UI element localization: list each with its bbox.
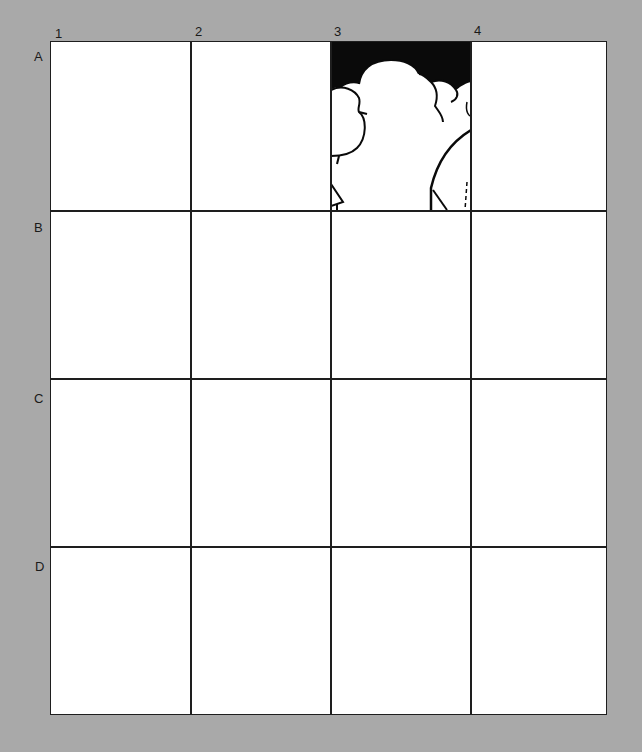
row-label-c: C [34,391,43,406]
column-label-2: 2 [195,24,202,39]
row-label-d: D [35,559,44,574]
grid-divider-row-c-d [51,546,606,548]
column-label-1: 1 [55,26,62,41]
cell-a3-cloud-drawing [331,42,471,211]
grid-divider-row-b-c [51,378,606,380]
column-label-4: 4 [474,23,481,38]
grid-divider-row-a-b [51,210,606,212]
drawing-grid [50,41,607,715]
row-label-b: B [34,220,43,235]
row-label-a: A [34,49,43,64]
column-label-3: 3 [334,24,341,39]
cloud-drawing-icon [331,42,471,211]
